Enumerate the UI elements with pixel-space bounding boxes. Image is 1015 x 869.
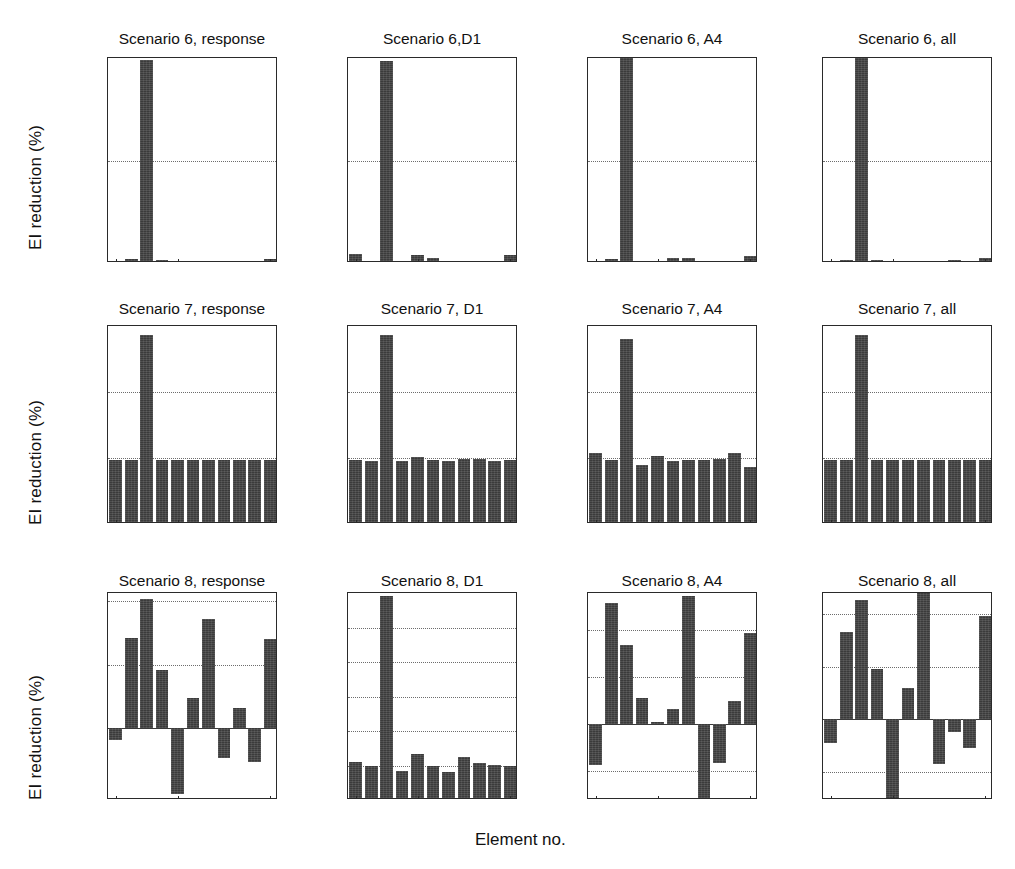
bar [488,765,501,799]
bar [202,619,215,729]
bar [728,261,741,262]
bar [871,669,884,719]
x-tick-mark [356,259,357,262]
plot-area: 05101511 [107,592,277,799]
y-tick-mark [347,731,348,732]
bar [744,633,757,724]
x-tick-mark [831,259,832,262]
bar [713,459,726,523]
bar [713,724,726,763]
panel-title: Scenario 8, response [107,572,277,589]
bar [396,461,409,523]
panel-title: Scenario 8, A4 [587,572,757,589]
bar [948,719,961,732]
y-tick-mark [347,392,348,393]
x-axis-label: Element no. [475,830,566,850]
bar [349,460,362,523]
y-tick-mark [587,630,588,631]
bar [979,460,992,523]
x-tick-mark [418,259,419,262]
plot-area: 0510151511 [587,325,757,523]
x-tick-mark [178,520,179,523]
bar [504,460,517,523]
y-axis-label-row-2: EI reduction (%) [26,400,46,525]
bar [855,58,868,262]
plot-area: 05101511 [587,57,757,262]
plot-area: -50510141511 [587,592,757,799]
bar [933,460,946,523]
bar [125,259,138,262]
panel-title: Scenario 7, response [107,300,277,317]
bar [682,258,695,262]
bar [442,772,455,799]
bar [427,258,440,262]
bar [728,453,741,523]
y-tick-mark [347,697,348,698]
x-tick-mark [270,259,271,262]
bar [380,335,393,523]
x-tick-mark [658,520,659,523]
bar [871,460,884,523]
bar [171,261,184,262]
bar [605,259,618,262]
plot-area: 0510151511 [347,325,517,523]
figure-bar-chart-grid: EI reduction (%) EI reduction (%) EI red… [0,0,1015,869]
bar [365,461,378,523]
y-tick-mark [347,662,348,663]
x-tick-mark [596,259,597,262]
y-tick-mark [822,614,823,615]
bar [902,688,915,720]
bar [233,460,246,523]
bar [902,460,915,523]
bar [667,461,680,523]
bar [248,728,261,761]
bar [963,719,976,748]
bar [840,260,853,262]
bar [427,460,440,523]
x-tick-mark [270,520,271,523]
bar [504,766,517,799]
bar [140,335,153,523]
bar [218,728,231,757]
bar [248,460,261,523]
bar [396,771,409,799]
y-tick-mark [822,161,823,162]
bar [917,593,930,719]
y-tick-mark [587,392,588,393]
bar [187,698,200,729]
bar-series [823,593,991,798]
x-tick-mark [596,520,597,523]
y-tick-mark [107,392,108,393]
bar [187,460,200,523]
bar-series [588,326,756,522]
panel-title: Scenario 7, A4 [587,300,757,317]
bar [917,460,930,523]
bar [458,459,471,523]
panel-title: Scenario 7, all [822,300,992,317]
panel-title: Scenario 6,D1 [347,30,517,47]
panel-title: Scenario 8, all [822,572,992,589]
panel-title: Scenario 8, D1 [347,572,517,589]
bar [636,465,649,523]
bar [589,453,602,523]
x-tick-mark [116,520,117,523]
x-tick-mark [893,796,894,799]
bar [886,460,899,523]
y-tick-mark [822,719,823,720]
bar-series [108,593,276,798]
y-tick-mark [107,58,108,59]
bar [667,709,680,724]
y-tick-mark [347,593,348,594]
plot-area: 05101511 [347,57,517,262]
bar [140,599,153,728]
y-tick-mark [107,601,108,602]
bar [728,701,741,724]
x-tick-mark [658,259,659,262]
bar [156,670,169,729]
bar [698,460,711,523]
y-tick-mark [587,326,588,327]
y-tick-mark [587,771,588,772]
bar [682,460,695,523]
plot-area: 0510151511 [822,325,992,523]
x-tick-mark [510,796,511,799]
